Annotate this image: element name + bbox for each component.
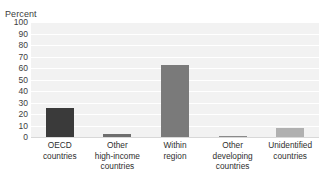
x-axis-category-labels: OECDcountriesOtherhigh-incomecountriesWi… bbox=[31, 140, 319, 187]
x-axis-label: OECDcountries bbox=[31, 140, 89, 161]
x-axis-label-line: high-income bbox=[89, 151, 147, 162]
bar-series bbox=[31, 22, 319, 137]
bar-chart: Percent 1009080706050403020100 OECDcount… bbox=[0, 0, 326, 187]
y-axis-tick: 80 bbox=[2, 41, 28, 50]
y-axis-tick: 60 bbox=[2, 64, 28, 73]
x-axis-label-line: Other bbox=[89, 140, 147, 151]
bar bbox=[161, 65, 189, 137]
x-axis-label: Unidentifiedcountries bbox=[261, 140, 319, 161]
x-axis-label-line: countries bbox=[31, 151, 89, 162]
bar bbox=[276, 128, 304, 137]
x-axis-label-line: Within bbox=[146, 140, 204, 151]
y-axis-tick: 90 bbox=[2, 30, 28, 39]
x-axis-label-line: OECD bbox=[31, 140, 89, 151]
x-axis-baseline bbox=[31, 137, 319, 138]
x-axis-label: Withinregion bbox=[146, 140, 204, 161]
x-axis-label-line: Other bbox=[204, 140, 262, 151]
y-axis-tick: 70 bbox=[2, 53, 28, 62]
y-axis-tick: 50 bbox=[2, 76, 28, 85]
bar bbox=[46, 108, 74, 137]
chart-title-clipped bbox=[0, 0, 326, 4]
y-axis-tick: 20 bbox=[2, 110, 28, 119]
x-axis-label-line: countries bbox=[89, 161, 147, 172]
x-axis-label-line: region bbox=[146, 151, 204, 162]
x-axis-label: Otherhigh-incomecountries bbox=[89, 140, 147, 172]
y-axis-tick: 40 bbox=[2, 87, 28, 96]
y-axis-tick: 10 bbox=[2, 122, 28, 131]
bar bbox=[219, 136, 247, 137]
x-axis-label-line: countries bbox=[204, 161, 262, 172]
bar bbox=[103, 134, 131, 137]
x-axis-label: Otherdevelopingcountries bbox=[204, 140, 262, 172]
y-axis-tick: 0 bbox=[2, 133, 28, 142]
y-axis-tick: 100 bbox=[2, 18, 28, 27]
x-axis-label-line: Unidentified bbox=[261, 140, 319, 151]
x-axis-label-line: developing bbox=[204, 151, 262, 162]
x-axis-label-line: countries bbox=[261, 151, 319, 162]
y-axis-tick-labels: 1009080706050403020100 bbox=[0, 0, 28, 187]
y-axis-tick: 30 bbox=[2, 99, 28, 108]
